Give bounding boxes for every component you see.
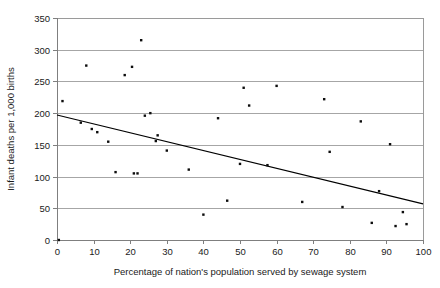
y-axis-ticks: 050100150200250300350 <box>34 13 57 246</box>
chart-plot-frame <box>57 18 423 240</box>
x-tick-label-10: 10 <box>89 246 100 257</box>
data-point <box>107 140 109 142</box>
x-tick-label-70: 70 <box>308 246 319 257</box>
scatter-chart: 050100150200250300350 010203040506070809… <box>0 0 440 288</box>
y-tick-label-350: 350 <box>34 13 50 24</box>
data-point <box>114 171 116 173</box>
data-point <box>58 239 60 241</box>
data-point <box>140 39 142 41</box>
x-tick-label-30: 30 <box>162 246 173 257</box>
y-tick-label-250: 250 <box>34 76 50 87</box>
data-point <box>188 168 190 170</box>
trendline-segment <box>57 115 423 204</box>
data-point <box>124 74 126 76</box>
data-point <box>144 114 146 116</box>
data-point <box>217 117 219 119</box>
data-point <box>155 140 157 142</box>
data-point <box>328 151 330 153</box>
x-axis-ticks: 0102030405060708090100 <box>55 240 432 257</box>
data-point <box>149 112 151 114</box>
chart-data-points <box>58 39 408 241</box>
x-tick-label-90: 90 <box>381 246 392 257</box>
chart-gridlines <box>57 19 423 209</box>
data-point <box>156 134 158 136</box>
x-tick-label-0: 0 <box>55 246 60 257</box>
data-point <box>85 64 87 66</box>
data-point <box>91 128 93 130</box>
data-point <box>166 149 168 151</box>
chart-figure: 050100150200250300350 010203040506070809… <box>0 0 440 288</box>
data-point <box>394 225 396 227</box>
data-point <box>371 222 373 224</box>
data-point <box>80 121 82 123</box>
data-point <box>323 98 325 100</box>
x-tick-label-100: 100 <box>416 246 432 257</box>
data-point <box>275 85 277 87</box>
x-tick-label-80: 80 <box>345 246 356 257</box>
data-point <box>266 164 268 166</box>
data-point <box>131 66 133 68</box>
data-point <box>96 131 98 133</box>
x-tick-label-40: 40 <box>198 246 209 257</box>
y-tick-label-300: 300 <box>34 45 50 56</box>
y-tick-label-100: 100 <box>34 172 50 183</box>
y-tick-label-150: 150 <box>34 140 50 151</box>
y-axis-title: Infant deaths per 1,000 births <box>5 67 16 191</box>
data-point <box>360 120 362 122</box>
data-point <box>389 143 391 145</box>
data-point <box>133 172 135 174</box>
data-point <box>239 163 241 165</box>
x-tick-label-50: 50 <box>235 246 246 257</box>
data-point <box>301 201 303 203</box>
x-tick-label-20: 20 <box>125 246 136 257</box>
data-point <box>248 104 250 106</box>
data-point <box>402 211 404 213</box>
data-point <box>136 172 138 174</box>
data-point <box>226 199 228 201</box>
data-point <box>242 87 244 89</box>
x-tick-label-60: 60 <box>272 246 283 257</box>
data-point <box>405 223 407 225</box>
data-point <box>378 190 380 192</box>
y-tick-label-50: 50 <box>39 203 50 214</box>
x-axis-title: Percentage of nation's population served… <box>114 266 367 277</box>
y-tick-label-0: 0 <box>45 235 50 246</box>
data-point <box>61 100 63 102</box>
data-point <box>202 213 204 215</box>
data-point <box>341 206 343 208</box>
y-tick-label-200: 200 <box>34 108 50 119</box>
chart-trendline <box>57 115 423 204</box>
